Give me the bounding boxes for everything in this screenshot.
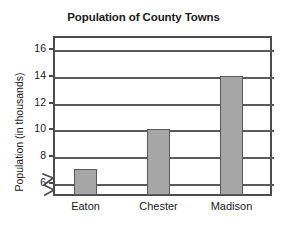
gridline (55, 50, 274, 52)
y-tick-label: 14 (26, 70, 46, 81)
y-tick-label: 8 (26, 150, 46, 161)
y-tick-mark (49, 155, 53, 157)
x-tick-label: Madison (192, 200, 272, 212)
y-tick-mark (49, 102, 53, 104)
bar-madison (220, 76, 243, 195)
x-tick-label: Eaton (46, 200, 126, 212)
y-tick-label: 16 (26, 43, 46, 54)
y-tick-mark (49, 48, 53, 50)
chart-title: Population of County Towns (0, 11, 287, 23)
y-tick-label: 10 (26, 123, 46, 134)
bar-eaton (74, 169, 97, 195)
axis-break-icon (41, 172, 57, 196)
y-tick-label: 12 (26, 97, 46, 108)
x-tick-label: Chester (119, 200, 199, 212)
chart-page: Population of County Towns Population (i… (0, 0, 287, 230)
y-tick-mark (49, 75, 53, 77)
y-tick-mark (49, 128, 53, 130)
bar-chester (147, 129, 170, 195)
